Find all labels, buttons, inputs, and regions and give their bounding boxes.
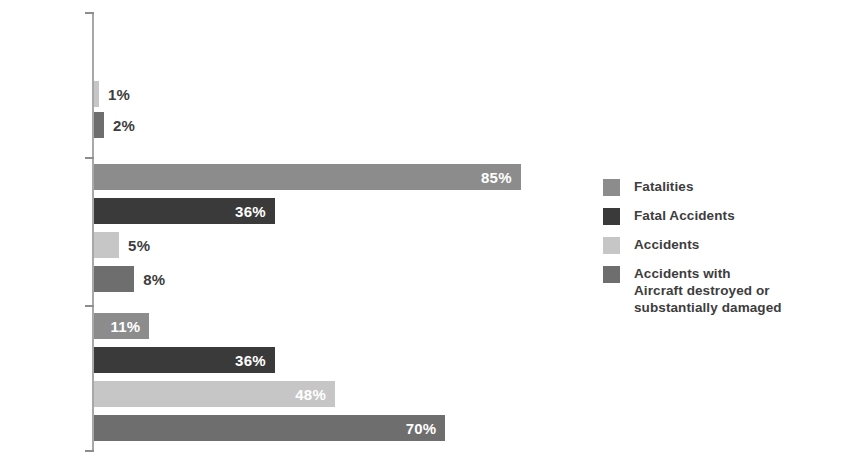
bar: 48% bbox=[94, 381, 335, 407]
axis-tick bbox=[85, 12, 94, 14]
bar-value-label: 70% bbox=[406, 420, 446, 437]
axis-tick bbox=[85, 450, 94, 452]
legend-swatch-icon bbox=[603, 237, 620, 254]
legend-item[interactable]: Fatal Accidents bbox=[603, 207, 853, 225]
bar: 36% bbox=[94, 347, 275, 373]
legend-swatch-icon bbox=[603, 179, 620, 196]
legend-item-label: Fatal Accidents bbox=[634, 207, 735, 224]
bar: 36% bbox=[94, 198, 275, 224]
bar: 11% bbox=[94, 313, 149, 339]
bar: 70% bbox=[94, 415, 445, 441]
bar-chart: CFITLOC-IRS 1%2%85%36%5%8%11%36%48%70% F… bbox=[0, 0, 861, 472]
chart-legend: FatalitiesFatal AccidentsAccidentsAccide… bbox=[603, 178, 853, 327]
legend-swatch-icon bbox=[603, 266, 620, 283]
bar-value-label: 85% bbox=[481, 169, 521, 186]
plot-area: CFITLOC-IRS 1%2%85%36%5%8%11%36%48%70% bbox=[0, 0, 600, 472]
legend-item-label: Accidents bbox=[634, 236, 699, 253]
bar-value-label: 5% bbox=[128, 237, 150, 254]
legend-swatch-icon bbox=[603, 208, 620, 225]
bar-value-label: 48% bbox=[295, 386, 335, 403]
bar-value-label: 2% bbox=[113, 117, 135, 134]
legend-item[interactable]: Fatalities bbox=[603, 178, 853, 196]
bar: 5% bbox=[94, 232, 119, 258]
bar-value-label: 36% bbox=[235, 352, 275, 369]
bar-value-label: 1% bbox=[108, 86, 130, 103]
legend-item[interactable]: Accidents bbox=[603, 236, 853, 254]
bar-value-label: 8% bbox=[143, 271, 165, 288]
bar: 8% bbox=[94, 266, 134, 292]
bar: 1% bbox=[94, 81, 99, 107]
bar: 2% bbox=[94, 112, 104, 138]
legend-item-label: Accidents with Aircraft destroyed or sub… bbox=[634, 265, 782, 316]
bar-value-label: 36% bbox=[235, 203, 275, 220]
legend-item-label: Fatalities bbox=[634, 178, 694, 195]
axis-tick bbox=[85, 305, 94, 307]
bar: 85% bbox=[94, 164, 521, 190]
bar-value-label: 11% bbox=[110, 318, 149, 335]
legend-item[interactable]: Accidents with Aircraft destroyed or sub… bbox=[603, 265, 853, 316]
axis-tick bbox=[85, 157, 94, 159]
